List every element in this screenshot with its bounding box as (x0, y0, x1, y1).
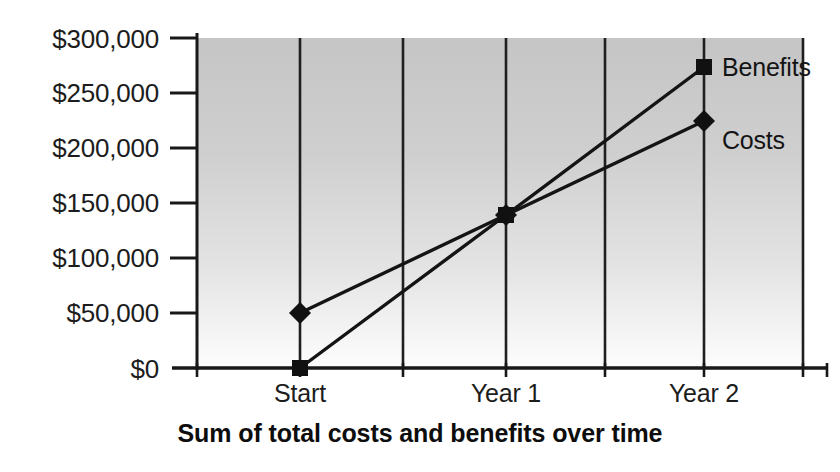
marker-benefits-year-2 (696, 59, 712, 75)
chart-figure: $300,000 $250,000 $200,000 $150,000 $100… (0, 0, 840, 472)
y-tick-label-50000: $50,000 (0, 300, 159, 326)
x-tick-label-year-1: Year 1 (406, 381, 606, 406)
y-tick-label-0: $0 (0, 356, 159, 382)
marker-benefits-start (292, 360, 308, 376)
chart-axis-title: Sum of total costs and benefits over tim… (0, 419, 840, 448)
y-tick-label-150000: $150,000 (0, 190, 159, 216)
y-tick-label-100000: $100,000 (0, 245, 159, 271)
y-tick-label-250000: $250,000 (0, 80, 159, 106)
plot-area-background (197, 38, 804, 368)
series-label-benefits: Benefits (722, 55, 811, 80)
x-tick-label-start: Start (200, 381, 400, 406)
y-tick-label-300000: $300,000 (0, 26, 159, 52)
y-tick-label-200000: $200,000 (0, 135, 159, 161)
x-tick-label-year-2: Year 2 (604, 381, 804, 406)
y-axis-tick-marks (170, 38, 198, 313)
series-label-costs: Costs (722, 128, 785, 153)
